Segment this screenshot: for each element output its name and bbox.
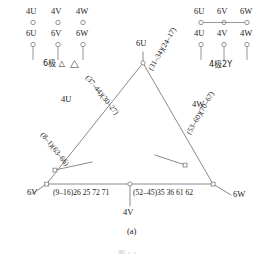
terminal-label-6v-left: 6V xyxy=(51,29,61,38)
terminal-block-left-graphics xyxy=(31,20,85,60)
terminal-block-right-graphics xyxy=(199,20,249,60)
terminal-label-4w-right: 4W xyxy=(240,29,252,38)
node-bottom-right-6w xyxy=(211,182,215,186)
terminal-dot-6v-left xyxy=(56,42,60,46)
delta-symbol-icon xyxy=(71,61,79,68)
cropped-figure-caption: 图 1-2 xyxy=(118,248,136,254)
terminal-label-6w-left: 6W xyxy=(76,29,88,38)
terminal-label-4u-right: 4U xyxy=(194,29,204,38)
terminal-dot-4u-right xyxy=(199,42,203,46)
terminal-label-4v-right: 4V xyxy=(217,29,227,38)
terminal-dot-4w-right xyxy=(245,42,249,46)
terminal-dot-6w-right xyxy=(245,20,249,24)
triangle-right-side xyxy=(143,63,213,184)
terminal-dot-4w-left xyxy=(81,20,85,24)
terminal-label-6w-right: 6W xyxy=(240,7,252,16)
terminal-label-4w-left: 4W xyxy=(76,7,88,16)
terminal-label-6u-left: 6U xyxy=(26,29,36,38)
terminal-dot-6u-left xyxy=(31,42,35,46)
terminal-group-label-right: 4极2Y xyxy=(209,61,232,69)
lead-6w xyxy=(213,184,231,195)
terminal-dot-4v-left xyxy=(56,20,60,24)
node-tap-right-4w xyxy=(183,163,187,167)
terminal-dot-4u-left xyxy=(31,20,35,24)
node-bottom-center-4v xyxy=(128,182,132,186)
coil-label-bottom-right: (52–45)35 36 61 62 xyxy=(133,189,193,197)
tap-label-4u: 4U xyxy=(61,95,71,104)
figure-container: 4U 4V 4W 6U 6V 6W 6极 △ 6U 6V 6W 4U 4V 4W… xyxy=(0,0,269,256)
terminal-label-6u-right: 6U xyxy=(194,7,204,16)
terminal-dot-6w-left xyxy=(81,42,85,46)
winding-diagram-svg xyxy=(0,0,269,256)
tap-label-4w: 4W xyxy=(192,100,204,109)
terminal-label-4v-left: 4V xyxy=(51,7,61,16)
terminal-dot-4v-right xyxy=(222,42,226,46)
terminal-group-label-left: 6极 △ xyxy=(43,60,65,68)
terminal-label-6v-right: 6V xyxy=(217,7,227,16)
terminal-dot-6u-right xyxy=(199,20,203,24)
node-bottom-left-6v xyxy=(45,182,49,186)
node-tap-left-4u xyxy=(53,168,57,172)
tap-label-4v: 4V xyxy=(123,208,133,217)
terminal-label-4u-left: 4U xyxy=(26,7,36,16)
corner-label-6w: 6W xyxy=(233,190,245,199)
coil-label-bottom-left: (9–16)26 25 72 71 xyxy=(53,189,109,197)
node-apex-6u xyxy=(141,61,145,65)
corner-label-6v: 6V xyxy=(27,188,37,197)
triangle-apex-label: 6U xyxy=(136,39,146,48)
tap-lead-4w xyxy=(155,155,185,165)
figure-caption: (a) xyxy=(127,226,136,236)
